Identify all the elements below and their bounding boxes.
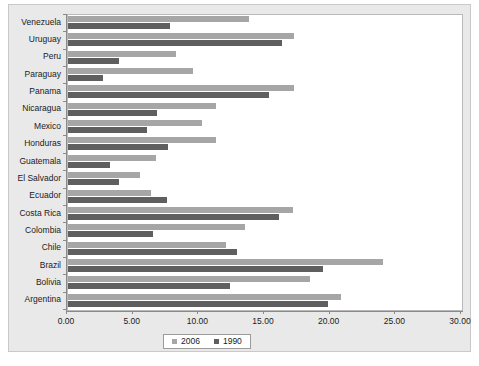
bar-group (68, 32, 462, 49)
category-label: Venezuela (21, 18, 61, 27)
bar-group (68, 258, 462, 275)
category-label: Chile (42, 243, 61, 252)
bar-2006 (68, 190, 151, 196)
x-axis-tick-label: 10.00 (187, 316, 208, 326)
bar-1990 (68, 75, 103, 81)
bar-group (68, 171, 462, 188)
bar-1990 (68, 179, 119, 185)
bar-1990 (68, 40, 282, 46)
x-axis-tick-label: 25.00 (384, 316, 405, 326)
category-label: Mexico (34, 122, 61, 131)
category-axis-labels: VenezuelaUruguayPeruParaguayPanamaNicara… (9, 14, 64, 311)
bar-group (68, 15, 462, 32)
bar-group (68, 189, 462, 206)
bar-group (68, 136, 462, 153)
category-label: Peru (43, 52, 61, 61)
bar-1990 (68, 127, 147, 133)
bar-rows-container (68, 15, 462, 310)
category-label: Uruguay (29, 35, 61, 44)
bar-1990 (68, 214, 279, 220)
x-axis-tick (460, 311, 461, 314)
legend-label-1990: 1990 (223, 337, 242, 346)
bar-group (68, 67, 462, 84)
category-label: Argentina (25, 295, 61, 304)
bar-1990 (68, 249, 237, 255)
bar-2006 (68, 242, 226, 248)
bar-1990 (68, 162, 110, 168)
bar-2006 (68, 68, 193, 74)
legend-item-2006: 2006 (172, 337, 200, 346)
bar-2006 (68, 276, 310, 282)
bar-1990 (68, 58, 119, 64)
category-label: Guatemala (19, 157, 61, 166)
category-label: El Salvador (18, 174, 61, 183)
chart-root: VenezuelaUruguayPeruParaguayPanamaNicara… (0, 0, 479, 366)
x-axis-line (66, 311, 463, 312)
legend-item-1990: 1990 (214, 337, 242, 346)
x-axis-tick-label: 15.00 (252, 316, 273, 326)
bar-2006 (68, 224, 245, 230)
y-axis-line (66, 14, 67, 312)
bar-2006 (68, 120, 202, 126)
x-axis-tick (263, 311, 264, 314)
x-axis-tick-label: 5.00 (123, 316, 140, 326)
bar-2006 (68, 85, 294, 91)
category-label: Brazil (40, 261, 61, 270)
bar-2006 (68, 259, 383, 265)
bar-1990 (68, 110, 157, 116)
bar-2006 (68, 155, 156, 161)
category-label: Costa Rica (19, 209, 61, 218)
x-axis-tick (197, 311, 198, 314)
category-label: Bolivia (36, 278, 61, 287)
category-label: Panama (29, 87, 61, 96)
chart-legend: 2006 1990 (163, 334, 251, 349)
bar-2006 (68, 16, 249, 22)
x-axis-tick (329, 311, 330, 314)
bar-group (68, 50, 462, 67)
category-label: Paraguay (25, 70, 61, 79)
bar-2006 (68, 172, 140, 178)
bar-group (68, 102, 462, 119)
bar-2006 (68, 51, 176, 57)
bar-group (68, 241, 462, 258)
bar-1990 (68, 266, 323, 272)
x-axis-tick (66, 311, 67, 314)
bar-1990 (68, 231, 153, 237)
bar-group (68, 119, 462, 136)
bar-group (68, 154, 462, 171)
bar-1990 (68, 283, 230, 289)
category-label: Honduras (24, 139, 61, 148)
category-label: Colombia (25, 226, 61, 235)
x-axis-tick-label: 0.00 (58, 316, 75, 326)
bar-2006 (68, 294, 341, 300)
x-axis-tick (132, 311, 133, 314)
category-label: Nicaragua (22, 104, 61, 113)
category-label: Ecuador (29, 191, 61, 200)
bar-group (68, 293, 462, 310)
chart-card: VenezuelaUruguayPeruParaguayPanamaNicara… (8, 4, 471, 352)
x-axis-tick-label: 30.00 (449, 316, 470, 326)
bar-1990 (68, 92, 269, 98)
bar-group (68, 275, 462, 292)
bar-group (68, 223, 462, 240)
legend-swatch-2006 (172, 339, 177, 344)
x-axis-tick (394, 311, 395, 314)
bar-1990 (68, 144, 168, 150)
x-axis-tick-label: 20.00 (318, 316, 339, 326)
bar-1990 (68, 23, 170, 29)
bar-1990 (68, 301, 328, 307)
bar-2006 (68, 33, 294, 39)
plot-area (67, 14, 463, 311)
bar-2006 (68, 207, 293, 213)
bar-2006 (68, 137, 216, 143)
legend-label-2006: 2006 (181, 337, 200, 346)
bar-group (68, 84, 462, 101)
bar-2006 (68, 103, 216, 109)
bar-1990 (68, 197, 167, 203)
legend-swatch-1990 (214, 339, 219, 344)
bar-group (68, 206, 462, 223)
